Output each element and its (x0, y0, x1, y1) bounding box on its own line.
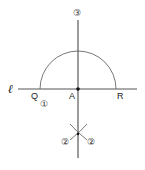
label-r: R (117, 91, 124, 101)
label-step3: ③ (73, 8, 81, 18)
construction-diagram: ℓ Q ① A R ② ② ③ (0, 0, 145, 170)
intersection-dot (77, 133, 79, 135)
label-step1: ① (40, 99, 48, 109)
label-step2-left: ② (61, 137, 69, 147)
label-step2-right: ② (87, 137, 95, 147)
label-line-l: ℓ (8, 82, 13, 96)
label-a: A (69, 91, 75, 101)
label-q: Q (31, 91, 38, 101)
point-a-dot (76, 87, 80, 91)
